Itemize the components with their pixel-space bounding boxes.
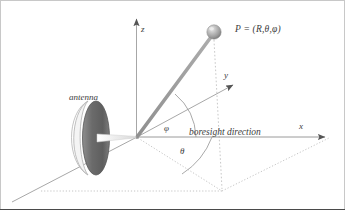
figure-bottom-margin bbox=[0, 210, 345, 219]
point-p-sphere bbox=[207, 25, 221, 39]
ground-plane-right-edge bbox=[222, 138, 329, 191]
antenna-coordinate-diagram: z y x P = (R,θ,φ) φ θ antenna boresight … bbox=[0, 0, 345, 219]
boresight-direction-label: boresight direction bbox=[189, 128, 261, 138]
x-axis-label: x bbox=[299, 122, 303, 131]
sphere-highlight bbox=[209, 27, 214, 31]
sphere-marker bbox=[207, 25, 221, 39]
point-p-label: P = (R,θ,φ) bbox=[235, 25, 281, 35]
diagram-canvas bbox=[0, 0, 345, 219]
y-axis-label: y bbox=[224, 71, 228, 80]
z-axis-label: z bbox=[141, 25, 145, 34]
phi-angle-label: φ bbox=[164, 124, 169, 133]
theta-angle-label: θ bbox=[180, 147, 184, 156]
antenna-dish bbox=[72, 101, 137, 175]
theta-angle-arc bbox=[182, 137, 212, 174]
range-vector-line bbox=[137, 37, 211, 137]
p-projection-dropline bbox=[214, 40, 222, 189]
figure-border-top bbox=[0, 0, 345, 1]
figure-border-left bbox=[0, 0, 1, 210]
antenna-label: antenna bbox=[69, 93, 98, 102]
